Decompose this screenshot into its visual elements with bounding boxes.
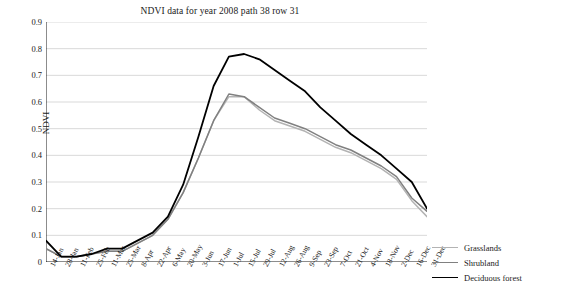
y-tick-label: 0.6: [31, 97, 42, 107]
legend-label: Grasslands: [464, 243, 501, 253]
y-tick-label: 0.9: [31, 17, 42, 27]
series-line: [46, 54, 427, 257]
legend-label: Deciduous forest: [464, 273, 522, 283]
legend-label: Shrubland: [464, 258, 499, 268]
y-tick-label: 0.3: [31, 177, 42, 187]
y-tick-label: 0.5: [31, 124, 42, 134]
legend-swatch-icon: [432, 277, 458, 278]
series-lines: [46, 22, 427, 262]
series-line: [46, 97, 427, 257]
legend: GrasslandsShrublandDeciduous forest: [432, 240, 564, 285]
legend-swatch-icon: [432, 262, 458, 263]
y-tick-label: 0.2: [31, 204, 42, 214]
y-tick-label: 0.7: [31, 70, 42, 80]
y-tick-label: 0.1: [31, 230, 42, 240]
plot-area: NDVI 00.10.20.30.40.50.60.70.80.9 14-Jan…: [46, 22, 427, 262]
legend-item: Shrubland: [432, 255, 564, 270]
chart-title: NDVI data for year 2008 path 38 row 31: [0, 6, 440, 16]
y-tick-label: 0.8: [31, 44, 42, 54]
y-tick-label: 0.4: [31, 150, 42, 160]
y-tick-label: 0: [38, 257, 42, 267]
chart-page: NDVI data for year 2008 path 38 row 31 N…: [0, 0, 567, 306]
legend-item: Grasslands: [432, 240, 564, 255]
legend-item: Deciduous forest: [432, 270, 564, 285]
series-line: [46, 94, 427, 257]
legend-swatch-icon: [432, 247, 458, 248]
